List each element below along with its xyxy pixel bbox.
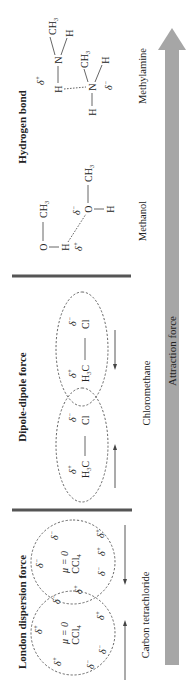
delta-minus: δ−	[95, 567, 107, 576]
compound-label-methylamine: Methylamine	[137, 48, 148, 104]
ch3-group: CH3	[47, 18, 59, 35]
ch3-group: CH3	[83, 165, 95, 182]
h3c-group: H3C	[80, 461, 92, 478]
methanol-pair: O CH3 H δ+ δ− O CH3 H	[38, 165, 116, 251]
dipole-zero-label: μ = 0	[59, 551, 70, 574]
bond	[61, 38, 67, 55]
attraction-force-label: Attraction force	[166, 316, 178, 386]
compound-label-methanol: Methanol	[137, 201, 148, 241]
delta-minus: δ−	[84, 660, 96, 669]
london-direction-arrows	[123, 525, 127, 680]
hydrogen-bond	[64, 87, 86, 89]
bond	[95, 65, 102, 82]
section-title-hydrogen: Hydrogen bond	[16, 90, 28, 163]
delta-plus: δ+	[72, 585, 84, 594]
compound-label-carbon-tetrachloride: Carbon tetrachloride	[140, 571, 151, 658]
arrow-head-icon	[158, 28, 186, 50]
ccl4-formula: CCl4	[70, 625, 82, 645]
delta-plus: δ+	[51, 657, 63, 666]
delta-plus: δ+	[34, 76, 46, 85]
cl-atom: Cl	[80, 319, 91, 329]
delta-minus: δ−	[70, 206, 82, 215]
ch3-group: CH3	[79, 51, 91, 68]
delta-plus: δ+	[72, 242, 84, 251]
methylamine-pair: δ+ H N CH3 H N CH3 H δ− H	[34, 18, 114, 116]
oxygen-atom: O	[83, 205, 94, 212]
diagram-rotated: Attraction force London dispersion force…	[0, 0, 188, 684]
ccl4-formula: CCl4	[70, 554, 82, 574]
bond	[84, 69, 88, 82]
chloromethane-molecule-2: δ+ H3C δ− Cl	[56, 292, 108, 406]
hydrogen-atom: H	[105, 205, 116, 212]
section-title-london: London dispersion force	[16, 555, 28, 669]
chloromethane-molecule-1: δ+ H3C δ− Cl	[56, 388, 108, 502]
attraction-force-arrow: Attraction force	[158, 28, 186, 665]
h3c-group: H3C	[80, 365, 92, 382]
dipole-direction-arrows	[113, 330, 117, 488]
dipole-ellipse	[56, 388, 108, 502]
oxygen-atom: O	[38, 243, 49, 250]
hydrogen-atom: H	[53, 85, 64, 92]
compound-label-chloromethane: Chloromethane	[141, 360, 152, 425]
arrow-left-icon	[113, 364, 117, 370]
delta-minus: δ−	[66, 317, 78, 326]
hydrogen-atom: H	[87, 108, 98, 115]
delta-plus: δ+	[32, 625, 44, 634]
delta-minus: δ−	[66, 413, 78, 422]
dipole-ellipse	[56, 292, 108, 406]
london-molecule-2: μ = 0 CCl4 δ+ δ− δ− δ− δ+ δ+	[31, 520, 115, 604]
delta-minus: δ−	[33, 559, 45, 568]
delta-minus: δ−	[96, 645, 108, 654]
delta-plus: δ+	[66, 369, 78, 378]
hydrogen-bond	[68, 214, 86, 242]
intermolecular-forces-diagram: Attraction force London dispersion force…	[0, 0, 188, 684]
dipole-zero-label: μ = 0	[59, 622, 70, 645]
nitrogen-atom: N	[53, 56, 64, 63]
cl-atom: Cl	[80, 415, 91, 425]
bond	[50, 37, 55, 55]
nitrogen-atom: N	[87, 83, 98, 90]
ch3-group: CH3	[38, 201, 50, 218]
delta-plus: δ+	[94, 529, 106, 538]
hydrogen-atom: H	[100, 56, 111, 63]
delta-plus: δ+	[94, 611, 106, 620]
hydrogen-atom: H	[64, 29, 75, 36]
delta-minus: δ−	[50, 595, 62, 604]
london-molecule-1: μ = 0 CCl4 δ+ δ− δ+ δ− δ+ δ−	[31, 591, 115, 675]
arrow-right-icon	[113, 444, 117, 450]
arrow-right-icon	[123, 620, 127, 626]
section-title-dipole: Dipole-dipole force	[16, 352, 28, 441]
hydrogen-atom: H	[60, 243, 71, 250]
delta-plus: δ+	[95, 547, 107, 556]
delta-minus: δ−	[48, 531, 60, 540]
arrow-left-icon	[123, 579, 127, 585]
delta-minus: δ−	[102, 81, 114, 90]
delta-plus: δ+	[66, 465, 78, 474]
